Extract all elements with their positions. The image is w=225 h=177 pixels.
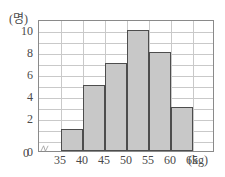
y-axis-tick-labels: 10 8 6 4 2 0 [0,20,33,152]
y-tick-label: 4 [27,91,33,103]
plot-area [38,20,214,152]
x-tick-label: 55 [142,154,154,167]
histogram-bar [127,30,149,151]
x-tick-label: 50 [120,154,132,167]
y-tick-label: 10 [21,25,33,37]
histogram-bar [83,85,105,151]
y-tick-label: 2 [27,113,33,125]
x-axis-unit-label: (kg) [188,154,208,167]
y-tick-label: 8 [27,47,33,59]
x-tick-label: 60 [164,154,176,167]
x-tick-label: 35 [54,154,66,167]
axis-break-icon [40,144,49,153]
bars-group [39,21,213,151]
x-tick-label: 45 [98,154,110,167]
histogram-bar [171,107,193,151]
histogram-figure: (명) 10 8 6 4 2 0 35404550556065 (kg) 0 [0,0,225,177]
histogram-bar [61,129,83,151]
origin-label: 0 [23,147,29,160]
histogram-bar [105,63,127,151]
y-tick-label: 6 [27,69,33,81]
histogram-bar [149,52,171,151]
x-tick-label: 40 [76,154,88,167]
